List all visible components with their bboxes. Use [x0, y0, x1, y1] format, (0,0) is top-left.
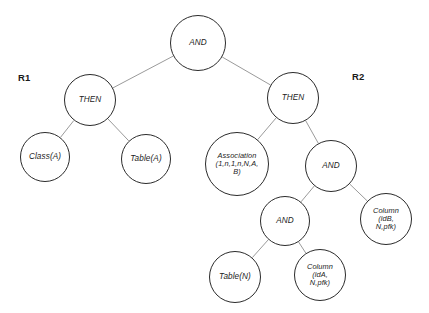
group-label-r1: R1 [18, 72, 31, 83]
node-and-right-upper: AND [305, 140, 357, 192]
node-layer: ANDTHENClass(A)Table(A)THENAssociation (… [0, 0, 429, 313]
tree-diagram: ANDTHENClass(A)Table(A)THENAssociation (… [0, 0, 429, 313]
node-label-then-left: THEN [77, 95, 104, 104]
node-label-column-idb: Column (idB, N,pfk) [371, 207, 401, 232]
caption-strip [0, 303, 429, 313]
node-then-right: THEN [267, 72, 319, 124]
node-label-column-ida: Column (idA, N,pfk) [305, 263, 335, 288]
node-label-and-right-upper: AND [320, 161, 342, 170]
group-label-r2: R2 [352, 71, 365, 82]
node-then-left: THEN [64, 74, 116, 126]
node-label-class-a: Class(A) [27, 152, 63, 161]
node-table-n: Table(N) [209, 251, 261, 303]
node-table-a: Table(A) [121, 134, 171, 184]
node-column-ida: Column (idA, N,pfk) [294, 249, 346, 301]
node-column-idb: Column (idB, N,pfk) [360, 193, 412, 245]
node-label-table-a: Table(A) [128, 154, 163, 163]
node-association: Association (1,n,1,n,N,A, B) [205, 132, 269, 196]
node-label-table-n: Table(N) [217, 272, 253, 281]
node-label-then-right: THEN [280, 93, 307, 102]
node-label-root-and: AND [187, 38, 209, 47]
node-label-and-right-lower: AND [274, 216, 296, 225]
node-class-a: Class(A) [20, 132, 70, 182]
node-label-association: Association (1,n,1,n,N,A, B) [214, 152, 261, 177]
node-root-and: AND [170, 15, 226, 71]
node-and-right-lower: AND [260, 196, 310, 246]
